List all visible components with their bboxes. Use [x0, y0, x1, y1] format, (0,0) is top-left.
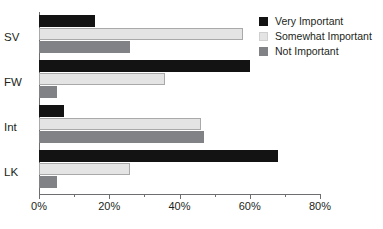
legend-swatch-icon — [259, 47, 268, 56]
x-tick-major — [39, 194, 40, 199]
bar — [39, 131, 204, 143]
chart-legend: Very ImportantSomewhat ImportantNot Impo… — [259, 14, 372, 59]
y-axis-category-label: SV — [4, 31, 19, 43]
bar — [39, 41, 130, 53]
bar — [39, 176, 57, 188]
legend-item: Very Important — [259, 14, 372, 28]
x-tick-major — [250, 194, 251, 199]
x-tick-major — [180, 194, 181, 199]
y-axis-category-label: Int — [4, 121, 17, 133]
bar — [39, 86, 57, 98]
bar — [39, 73, 165, 85]
bar-group — [39, 148, 320, 193]
x-tick-minor — [144, 194, 145, 197]
legend-item: Somewhat Important — [259, 29, 372, 43]
x-tick-major — [109, 194, 110, 199]
x-tick-label: 0% — [31, 200, 47, 212]
x-tick-minor — [285, 194, 286, 197]
x-tick-major — [320, 194, 321, 199]
bar-group — [39, 103, 320, 148]
x-tick-label: 40% — [168, 200, 190, 212]
legend-label: Very Important — [275, 15, 343, 27]
bar — [39, 118, 201, 130]
legend-swatch-icon — [259, 32, 268, 41]
bar — [39, 28, 243, 40]
legend-swatch-icon — [259, 17, 268, 26]
bar — [39, 15, 95, 27]
x-tick-label: 20% — [98, 200, 120, 212]
bar-group — [39, 58, 320, 103]
legend-label: Somewhat Important — [275, 30, 372, 42]
x-tick-label: 80% — [309, 200, 331, 212]
bar — [39, 163, 130, 175]
legend-item: Not Important — [259, 44, 372, 58]
bar — [39, 60, 250, 72]
legend-label: Not Important — [275, 45, 339, 57]
y-axis-category-label: LK — [4, 166, 18, 178]
x-tick-minor — [74, 194, 75, 197]
x-tick-label: 60% — [239, 200, 261, 212]
x-tick-minor — [215, 194, 216, 197]
bar — [39, 105, 64, 117]
bar — [39, 150, 278, 162]
bar-chart: 0%20%40%60%80% SVFWIntLK Very ImportantS… — [0, 0, 383, 229]
y-axis-category-label: FW — [4, 76, 22, 88]
